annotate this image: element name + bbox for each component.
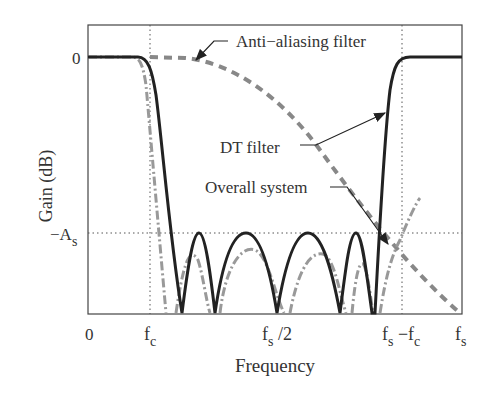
x-tick-zero: 0 — [85, 325, 94, 344]
x-tick-fs: fs — [455, 324, 466, 349]
x-tick-fs-half: fs /2 — [262, 324, 292, 349]
y-tick-as: −As — [50, 225, 77, 249]
y-tick-zero: 0 — [72, 49, 81, 68]
x-tick-fc: fc — [144, 324, 156, 349]
annotation-overall-system: Overall system — [205, 178, 307, 197]
x-tick-fs-minus-fc: fs −fc — [382, 324, 420, 349]
anti-aliasing-leader — [196, 41, 228, 60]
plot-frame — [88, 25, 462, 314]
y-axis-label: Gain (dB) — [36, 150, 57, 222]
x-axis-label: Frequency — [235, 355, 316, 376]
filter-response-chart: Anti−aliasing filter DT filter Overall s… — [0, 0, 491, 394]
annotation-dt-filter: DT filter — [220, 138, 280, 157]
annotation-anti-aliasing: Anti−aliasing filter — [236, 32, 366, 51]
dt-filter-leader — [300, 113, 385, 145]
